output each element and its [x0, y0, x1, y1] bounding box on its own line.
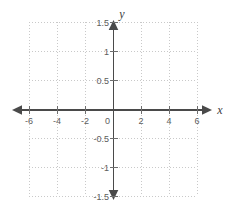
x-axis-label: x: [216, 103, 223, 117]
x-axis-tick-labels: -6 -4 -2 2 4 6: [25, 116, 200, 126]
x-tick-label: 6: [194, 116, 199, 126]
y-tick-label: 1: [104, 47, 109, 57]
y-tick-label: -0.5: [93, 134, 109, 144]
coordinate-plane-svg: -6 -4 -2 2 4 6 0 1.5 1 0.5 -0.5 -1 -1.5 …: [0, 0, 229, 215]
origin-tick-label: 0: [105, 116, 110, 126]
y-axis-arrow-up: [109, 20, 119, 30]
y-tick-label: -1.5: [93, 192, 109, 202]
y-axis-label: y: [118, 7, 125, 21]
x-tick-label: -6: [25, 116, 33, 126]
x-axis-arrow-right: [202, 105, 212, 115]
x-tick-label: -4: [53, 116, 61, 126]
y-tick-label: -1: [101, 163, 109, 173]
coordinate-plane-figure: -6 -4 -2 2 4 6 0 1.5 1 0.5 -0.5 -1 -1.5 …: [0, 0, 229, 215]
x-tick-label: -2: [81, 116, 89, 126]
x-axis: [12, 105, 212, 115]
x-axis-arrow-left: [12, 105, 22, 115]
y-tick-label: 1.5: [96, 18, 109, 28]
x-tick-label: 2: [138, 116, 143, 126]
y-axis-arrow-down: [109, 190, 119, 200]
x-tick-label: 4: [166, 116, 171, 126]
y-tick-label: 0.5: [96, 76, 109, 86]
